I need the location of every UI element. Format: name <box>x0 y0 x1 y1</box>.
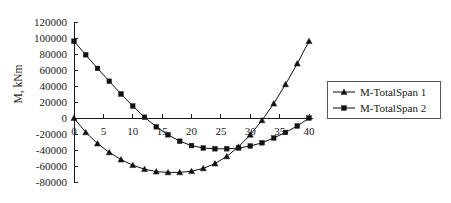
y-tick-label: 120000 <box>34 16 68 28</box>
data-point-marker <box>119 92 124 97</box>
data-point-marker <box>271 101 277 106</box>
x-tick-label: 25 <box>215 125 227 137</box>
x-tick-label: 40 <box>304 125 316 137</box>
y-axis-tick-labels: -80000-60000-40000-200000200004000060000… <box>34 16 68 188</box>
y-tick-label: -20000 <box>36 128 68 140</box>
data-point-marker <box>271 136 276 141</box>
x-axis-tick-marks <box>74 114 309 118</box>
data-point-marker <box>260 141 265 146</box>
x-tick-label: 5 <box>101 125 107 137</box>
data-point-marker <box>130 162 136 167</box>
data-point-marker <box>142 115 147 120</box>
series-1 <box>71 38 312 175</box>
data-point-marker <box>189 143 194 148</box>
y-tick-label: 20000 <box>40 96 68 108</box>
data-point-marker <box>307 116 312 121</box>
y-tick-label: 0 <box>62 112 68 124</box>
data-point-marker <box>154 125 159 130</box>
data-point-marker <box>236 146 241 151</box>
y-tick-label: -80000 <box>36 176 68 188</box>
data-point-marker <box>295 124 300 129</box>
x-tick-label: 20 <box>186 125 198 137</box>
y-tick-label: 100000 <box>34 32 68 44</box>
chart-container: -80000-60000-40000-200000200004000060000… <box>0 0 451 203</box>
data-point-marker <box>177 139 182 144</box>
y-tick-label: 60000 <box>40 64 68 76</box>
y-tick-label: 40000 <box>40 80 68 92</box>
data-point-marker <box>107 79 112 84</box>
data-point-marker <box>248 144 253 149</box>
data-point-marker <box>83 53 88 58</box>
y-tick-label: -60000 <box>36 160 68 172</box>
data-point-marker <box>294 61 300 66</box>
data-point-marker <box>283 130 288 135</box>
y-tick-label: 80000 <box>40 48 68 60</box>
series-layer <box>71 38 312 175</box>
data-point-marker <box>166 133 171 138</box>
data-point-marker <box>118 157 124 162</box>
x-axis-tick-labels: 0510152025303540 <box>71 125 315 137</box>
legend-item-label: M-TotalSpan 1 <box>360 86 426 98</box>
data-point-marker <box>130 104 135 109</box>
data-point-marker <box>224 147 229 152</box>
data-point-marker <box>306 38 312 43</box>
y-axis-tick-marks <box>74 22 78 182</box>
data-point-marker <box>200 165 206 170</box>
data-point-marker <box>213 147 218 152</box>
legend-square-marker-icon <box>342 106 347 111</box>
y-tick-label: -40000 <box>36 144 68 156</box>
legend-item-label: M-TotalSpan 2 <box>360 102 426 114</box>
data-point-marker <box>95 66 100 71</box>
line-chart: -80000-60000-40000-200000200004000060000… <box>0 0 451 203</box>
data-point-marker <box>201 146 206 151</box>
data-point-marker <box>212 161 218 166</box>
chart-legend: M-TotalSpan 1M-TotalSpan 2 <box>327 81 440 118</box>
data-point-marker <box>72 39 77 44</box>
x-tick-label: 10 <box>127 125 139 137</box>
data-point-marker <box>283 81 289 86</box>
y-axis-title: M, kNm <box>12 64 25 103</box>
